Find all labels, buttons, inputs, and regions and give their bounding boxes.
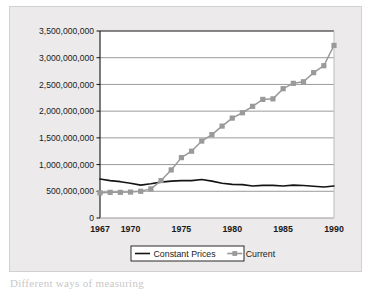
data-point-marker [108,190,113,195]
data-point-marker [301,79,306,84]
data-point-marker [219,124,224,129]
plot-background [100,31,334,218]
x-axis-tick-label: 1967 [90,224,110,234]
page-below-text: Different ways of measuring [10,277,144,289]
y-axis-tick-label: 2,500,000,000 [39,80,94,90]
x-axis-tick-label: 1970 [121,224,141,234]
x-axis-tick-label: 1985 [273,224,293,234]
data-point-marker [209,132,214,137]
chart-plot-container: 0500,000,0001,000,000,0001,500,000,0002,… [0,0,373,295]
data-point-marker [260,97,265,102]
chart-legend: Constant PricesCurrent [131,246,276,261]
y-axis-tick-label: 0 [89,213,94,223]
line-chart: 0500,000,0001,000,000,0001,500,000,0002,… [0,0,373,295]
y-axis-tick-label: 1,500,000,000 [39,133,94,143]
legend-label: Constant Prices [154,249,217,259]
data-point-marker [331,43,336,48]
data-point-marker [199,138,204,143]
y-axis-tick-labels: 0500,000,0001,000,000,0001,500,000,0002,… [39,26,94,223]
data-point-marker [148,186,153,191]
data-point-marker [240,110,245,115]
data-point-marker [97,190,102,195]
data-point-marker [270,96,275,101]
x-axis-tick-labels: 196719701975198019851990 [90,224,344,234]
data-point-marker [230,115,235,120]
data-point-marker [189,149,194,154]
y-axis-tick-label: 3,000,000,000 [39,53,94,63]
y-axis-tick-label: 1,000,000,000 [39,160,94,170]
y-axis-tick-label: 3,500,000,000 [39,26,94,36]
legend-label: Current [246,249,276,259]
data-point-marker [179,155,184,160]
y-axis-tick-label: 2,000,000,000 [39,106,94,116]
data-point-marker [321,63,326,68]
data-point-marker [291,81,296,86]
data-point-marker [250,104,255,109]
y-axis-tick-label: 500,000,000 [46,186,94,196]
data-point-marker [281,86,286,91]
chart-figure: 0500,000,0001,000,000,0001,500,000,0002,… [0,0,373,295]
x-axis-tick-label: 1990 [324,224,344,234]
data-point-marker [138,189,143,194]
x-axis-tick-label: 1975 [172,224,192,234]
data-point-marker [118,190,123,195]
data-point-marker [158,178,163,183]
data-point-marker [169,167,174,172]
legend-marker-swatch [232,251,237,256]
data-point-marker [311,70,316,75]
data-point-marker [128,189,133,194]
x-axis-tick-label: 1980 [222,224,242,234]
